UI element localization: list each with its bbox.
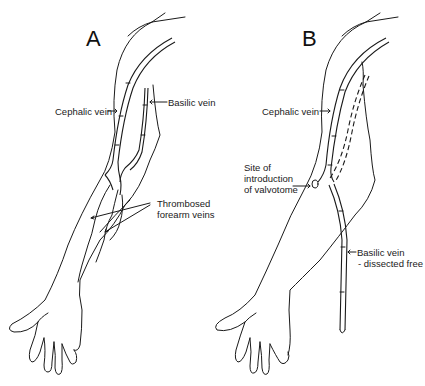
panel-a-arm: [9, 13, 185, 374]
label-a-thrombosed-line1: Thrombosed: [157, 198, 210, 209]
label-b-cephalic-vein: Cephalic vein: [262, 106, 319, 117]
panel-b-arm: [216, 13, 398, 374]
label-b-basilic-line1: Basilic vein: [357, 247, 405, 258]
label-a-cephalic-vein: Cephalic vein: [55, 106, 112, 117]
panel-b-letter: B: [302, 26, 317, 52]
panel-a-letter: A: [86, 26, 101, 52]
label-a-thrombosed-line2: forearm veins: [157, 209, 215, 220]
vein-diagram: A B Cephalic vein Basilic vein Thrombose…: [0, 0, 425, 386]
label-b-basilic-line2: - dissected free: [358, 258, 423, 269]
panel-a-veins: [78, 38, 175, 282]
panel-a-leaders: [91, 100, 167, 232]
arm-drawings: [0, 0, 425, 386]
label-b-site-line1: Site of: [244, 162, 271, 173]
label-a-basilic-vein: Basilic vein: [168, 97, 216, 108]
label-b-site-line3: of valvotome: [244, 184, 298, 195]
label-b-site-line2: introduction: [244, 173, 293, 184]
